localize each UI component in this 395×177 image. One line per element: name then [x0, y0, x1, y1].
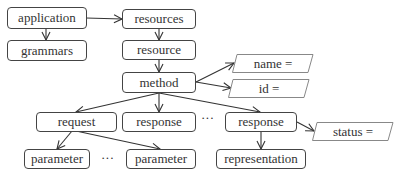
- ellipsis-parameters: ···: [101, 150, 114, 166]
- attr-id-label: id =: [259, 81, 280, 97]
- node-grammars: grammars: [7, 40, 87, 61]
- node-parameter-left: parameter: [24, 149, 90, 169]
- attr-status-label: status =: [333, 124, 373, 140]
- node-request: request: [36, 112, 117, 132]
- attr-name-label: name =: [254, 56, 293, 72]
- node-application: application: [7, 7, 87, 29]
- attr-name: name =: [232, 54, 314, 73]
- node-resources: resources: [122, 9, 196, 29]
- node-response-right: response: [225, 112, 297, 132]
- node-method: method: [122, 72, 196, 93]
- ellipsis-responses: ···: [201, 110, 214, 126]
- node-representation: representation: [216, 149, 306, 169]
- node-parameter-right: parameter: [126, 149, 196, 169]
- attr-status: status =: [312, 122, 394, 141]
- node-resource: resource: [122, 40, 196, 60]
- node-response-middle: response: [122, 112, 196, 132]
- attr-id: id =: [228, 79, 310, 98]
